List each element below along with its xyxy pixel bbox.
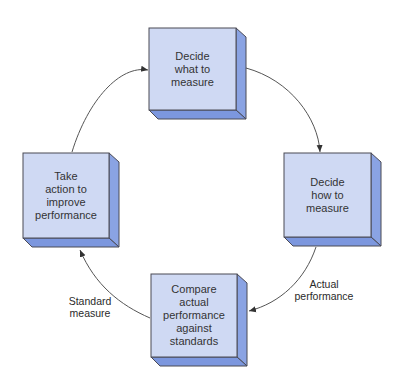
node-decide-how: Decide how to measure (284, 153, 381, 246)
node-take-action: Take action to improve performance (23, 153, 119, 247)
node-compare: Compare actual performance against stand… (151, 274, 247, 366)
edge-label-standard-measure: Standard measure (60, 295, 120, 319)
arrow-take-action-to-decide-what (72, 70, 148, 152)
node-decide-what: Decide what to measure (149, 28, 246, 119)
arrow-decide-what-to-decide-how (246, 68, 320, 152)
node-label: Compare actual performance against stand… (151, 274, 237, 357)
node-label: Decide how to measure (284, 153, 371, 237)
node-label: Take action to improve performance (23, 153, 109, 238)
edge-label-actual-performance: Actual performance (288, 278, 360, 302)
node-label: Decide what to measure (149, 28, 236, 110)
